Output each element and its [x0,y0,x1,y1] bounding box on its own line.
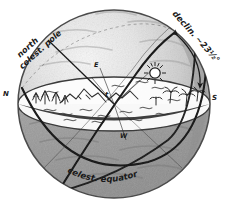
label-observer-center: t [105,92,109,99]
diagram-canvas: celest. equator north celest. pole decli… [0,0,228,214]
celestial-sphere-diagram: celest. equator north celest. pole decli… [0,0,228,214]
label-cardinal-south: S [212,95,217,102]
label-cardinal-east: E [94,62,99,69]
label-cardinal-north: N [3,91,9,98]
sun-icon [144,62,165,83]
label-cardinal-west: W [120,133,127,140]
